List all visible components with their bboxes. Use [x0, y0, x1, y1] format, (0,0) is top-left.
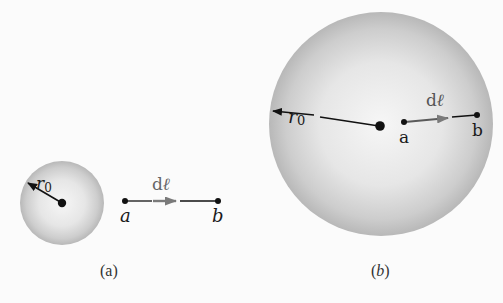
panel-a: r0 dℓ a b (a)	[20, 161, 224, 280]
caption-b: (b)	[371, 262, 390, 280]
point-b-dot-a	[215, 198, 221, 204]
point-b-label-a: b	[212, 205, 224, 226]
point-b-dot-b	[474, 112, 480, 118]
dl-label-a: dℓ	[152, 174, 170, 194]
panel-b: r0 dℓ a b (b)	[269, 12, 493, 280]
point-b-label-b: b	[472, 120, 483, 140]
caption-a: (a)	[100, 262, 118, 280]
point-a-dot-a	[122, 198, 128, 204]
diagram-canvas: r0 dℓ a b (a) r0 dℓ a b (b)	[0, 0, 503, 303]
point-a-label-b: a	[399, 127, 409, 147]
point-a-dot-b	[401, 119, 407, 125]
sphere-center-dot-a	[58, 199, 66, 207]
sphere-center-dot-b	[375, 121, 385, 131]
point-a-label-a: a	[120, 205, 131, 226]
dl-label-b: dℓ	[426, 90, 444, 110]
